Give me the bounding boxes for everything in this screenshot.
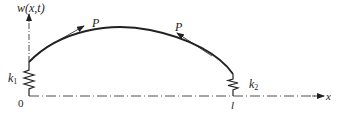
spring-right: [228, 74, 238, 96]
x-axis-label: x: [326, 91, 331, 102]
length-label: l: [231, 100, 234, 111]
force-left-label: P: [92, 17, 99, 29]
force-arrow-right: [177, 33, 212, 56]
spring-left-subscript: 1: [13, 77, 17, 86]
beam-diagram: [0, 0, 338, 118]
spring-left-label: k1: [8, 72, 17, 86]
spring-left: [24, 62, 34, 96]
force-right-label: P: [175, 21, 182, 33]
spring-right-label: k2: [249, 78, 258, 92]
spring-right-subscript: 2: [254, 83, 258, 92]
y-axis-label: w(x,t): [17, 2, 45, 14]
force-arrow-left: [45, 26, 84, 48]
origin-label: 0: [18, 98, 24, 109]
beam-curve: [29, 27, 233, 74]
